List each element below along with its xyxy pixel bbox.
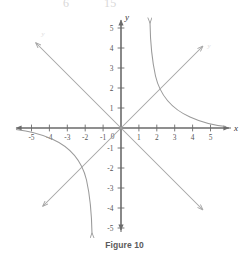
- x-axis-label: x: [233, 123, 238, 133]
- x-tick-label: 3: [173, 133, 177, 142]
- y-tick-label: 4: [110, 44, 114, 53]
- curve-label-upper-left: y: [40, 30, 45, 38]
- x-tick-label: 1: [137, 133, 141, 142]
- y-tick-label: 5: [110, 24, 114, 33]
- x-tick-label: 2: [155, 133, 159, 142]
- figure-10-graph: 6 15: [0, 0, 249, 261]
- hyperbola-branch-quadrant-III: [16, 129, 92, 233]
- x-tick-label: 4: [191, 133, 195, 142]
- x-tick-label: -1: [100, 133, 106, 142]
- y-tick-label: 2: [110, 84, 114, 93]
- y-tick-label: 3: [110, 64, 114, 73]
- x-tick-label: 5: [209, 133, 213, 142]
- x-tick-label: -3: [64, 133, 70, 142]
- curve-label-upper-right: y: [206, 42, 211, 50]
- hyperbola-branch-quadrant-I: [150, 23, 226, 127]
- y-axis-label: y: [124, 12, 129, 22]
- y-tick-label: -5: [107, 224, 113, 233]
- y-tick-label: -1: [107, 144, 113, 153]
- figure-caption: Figure 10: [0, 240, 249, 250]
- y-tick-label: -3: [107, 184, 113, 193]
- x-tick-label: -2: [82, 133, 88, 142]
- y-tick-label: 1: [110, 104, 114, 113]
- coordinate-plane: -5 -4 -3 -2 -1 1 2 3 4 5 5 4 3 2 1 -1 -2…: [0, 6, 249, 238]
- y-tick-label: -2: [107, 164, 113, 173]
- x-tick-label: -5: [28, 133, 34, 142]
- y-tick-label: -4: [107, 204, 113, 213]
